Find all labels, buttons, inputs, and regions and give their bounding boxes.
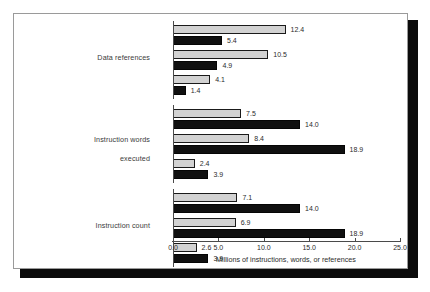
bar [173,25,286,34]
bar [173,145,345,154]
figure-frame: TeX, m-m12.4TeX, l/s5.4Spice, m-m10.5Spi… [13,13,408,269]
bar-value-label: 14.0 [305,120,319,129]
bar-value-label: 14.0 [305,204,319,213]
group-label: Instruction count [20,221,150,231]
bar [173,61,217,70]
bar-value-label: 7.5 [246,109,256,118]
bar [173,193,237,202]
bar [173,120,300,129]
x-axis-tick-label: 5.0 [214,244,224,251]
x-axis-line [172,241,400,242]
group-label-line1: Data references [97,53,150,62]
x-axis-tick [355,238,356,242]
bar [173,134,249,143]
bar [173,36,222,45]
group-label: Instruction wordsexecuted [20,130,150,168]
bar [173,75,210,84]
x-axis-tick [309,238,310,242]
x-axis-tick [173,238,174,242]
x-axis-tick-label: 10.0 [257,244,271,251]
bar-chart-plot-area: TeX, m-m12.4TeX, l/s5.4Spice, m-m10.5Spi… [14,14,407,268]
y-axis-segment [173,105,174,183]
bar [173,86,186,95]
bar [173,218,236,227]
x-axis-title: Millions of instructions, words, or refe… [172,255,400,264]
group-label-line1: Instruction count [96,221,150,230]
bar [173,159,195,168]
bar-value-label: 5.4 [227,36,237,45]
x-axis-tick-label: 0.0 [168,244,178,251]
bar-value-label: 2.4 [200,159,210,168]
bar [173,204,300,213]
bar [173,109,241,118]
x-axis-tick [400,238,401,242]
x-axis-tick-label: 20.0 [348,244,362,251]
x-axis-tick [264,238,265,242]
bar-value-label: 2.6 [202,243,212,252]
x-axis-tick [218,238,219,242]
group-label: Data references [20,53,150,63]
bar-value-label: 4.9 [222,61,232,70]
bar-value-label: 12.4 [291,25,305,34]
bar-value-label: 3.9 [213,170,223,179]
y-axis-segment [173,21,174,99]
group-label-line1: Instruction words [94,135,150,144]
bar-value-label: 10.5 [273,50,287,59]
bar [173,170,208,179]
group-label-line2: executed [20,149,150,168]
bar [173,50,268,59]
bar-value-label: 6.9 [241,218,251,227]
bar-value-label: 18.9 [350,229,364,238]
bar-value-label: 1.4 [191,86,201,95]
bar-value-label: 4.1 [215,75,225,84]
figure-screenshot: TeX, m-m12.4TeX, l/s5.4Spice, m-m10.5Spi… [0,0,430,292]
x-axis-tick-label: 25.0 [393,244,407,251]
bar-value-label: 7.1 [242,193,252,202]
bar [173,229,345,238]
bar-value-label: 8.4 [254,134,264,143]
x-axis-tick-label: 15.0 [302,244,316,251]
bar-value-label: 18.9 [350,145,364,154]
